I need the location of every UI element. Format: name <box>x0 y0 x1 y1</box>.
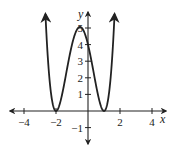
x-tick-label: −4 <box>18 116 30 128</box>
x-tick-label: −2 <box>50 116 62 128</box>
y-tick-label: 2 <box>78 72 84 84</box>
y-tick-label: 1 <box>78 88 84 100</box>
y-tick-label: −1 <box>71 122 83 134</box>
y-tick-label: 3 <box>78 55 84 67</box>
y-tick-label: 4 <box>78 39 84 51</box>
x-axis-label: x <box>159 112 166 126</box>
y-axis-label: y <box>77 7 84 21</box>
x-tick-label: 2 <box>117 116 123 128</box>
x-tick-label: 4 <box>149 116 155 128</box>
function-graph: x y −4−224 −112345 <box>0 0 174 150</box>
y-tick-label: 5 <box>78 22 84 34</box>
